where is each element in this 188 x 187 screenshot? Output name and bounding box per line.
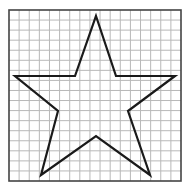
grid (9, 10, 181, 181)
star-grid-diagram (0, 0, 188, 187)
grid-border (9, 10, 181, 181)
